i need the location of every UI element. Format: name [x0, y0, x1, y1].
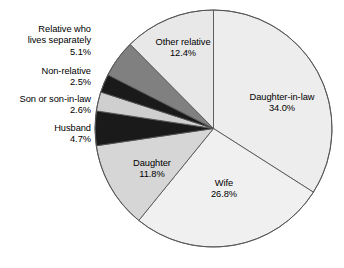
slice-label-text: Non-relative	[41, 66, 91, 77]
slice-value-text: 11.8%	[133, 169, 171, 180]
slice-label-text-line1: Relative who	[28, 24, 91, 35]
slice-label-relative-who-lives-separately: Relative who lives separately 5.1%	[28, 24, 91, 58]
pie-slice-group	[95, 10, 332, 247]
slice-label-text: Wife	[211, 178, 237, 189]
slice-label-other-relative: Other relative 12.4%	[155, 37, 210, 60]
slice-value-text: 26.8%	[211, 189, 237, 200]
slice-label-wife: Wife 26.8%	[211, 178, 237, 201]
slice-label-text: Husband	[54, 123, 91, 134]
slice-value-text: 12.4%	[155, 48, 210, 59]
slice-label-text: Son or son-in-law	[20, 94, 92, 105]
slice-label-text: Other relative	[155, 37, 210, 48]
slice-label-son-or-son-in-law: Son or son-in-law 2.6%	[20, 94, 92, 117]
slice-value-text: 5.1%	[28, 47, 91, 58]
slice-label-non-relative: Non-relative 2.5%	[41, 66, 91, 89]
slice-value-text: 4.7%	[54, 134, 91, 145]
pie-chart: Relative who lives separately 5.1% Non-r…	[0, 0, 344, 268]
slice-value-text: 34.0%	[250, 103, 315, 114]
slice-label-husband: Husband 4.7%	[54, 123, 91, 146]
slice-label-text-line2: lives separately	[28, 35, 91, 46]
slice-label-daughter-in-law: Daughter-in-law 34.0%	[250, 92, 315, 115]
slice-value-text: 2.6%	[20, 105, 92, 116]
slice-value-text: 2.5%	[41, 77, 91, 88]
slice-label-daughter: Daughter 11.8%	[133, 158, 171, 181]
slice-label-text: Daughter	[133, 158, 171, 169]
slice-label-text: Daughter-in-law	[250, 92, 315, 103]
